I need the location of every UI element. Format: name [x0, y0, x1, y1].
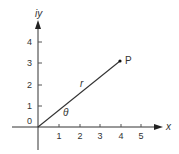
y-ticks — [38, 42, 42, 106]
point-p-label: P — [125, 55, 132, 66]
x-tick-label: 5 — [139, 131, 144, 141]
x-tick-label: 3 — [98, 131, 103, 141]
point-p-marker — [118, 59, 121, 62]
y-axis-arrow-icon — [35, 20, 41, 29]
x-tick-label: 1 — [57, 131, 62, 141]
y-tick-label: 1 — [27, 101, 32, 111]
x-tick-label: 2 — [78, 131, 83, 141]
radius-segment — [38, 61, 120, 127]
x-axis-arrow-icon — [154, 124, 163, 130]
origin-label: 0 — [27, 116, 32, 126]
coordinate-diagram: 1 2 3 4 5 1 2 3 4 0 x iy P r θ — [0, 0, 179, 154]
x-tick-label: 4 — [119, 131, 124, 141]
y-tick-label: 4 — [27, 37, 32, 47]
y-axis-label: iy — [35, 8, 43, 19]
angle-theta-label: θ — [63, 107, 69, 118]
y-tick-label: 2 — [27, 80, 32, 90]
y-tick-label: 3 — [27, 58, 32, 68]
radius-label: r — [80, 78, 84, 89]
x-axis-label: x — [165, 121, 172, 132]
